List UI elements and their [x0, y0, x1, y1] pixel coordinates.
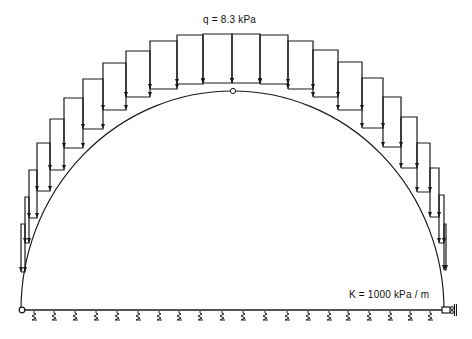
load-arrow-icon — [27, 213, 31, 218]
load-arrow-icon — [428, 212, 432, 217]
load-arrow-icon — [336, 105, 340, 110]
spring-stiffness-label: K = 1000 kPa / m — [349, 289, 429, 300]
load-arrow-icon — [27, 238, 31, 243]
load-magnitude-label: q = 8.3 kPa — [203, 14, 256, 25]
load-arrow-icon — [148, 84, 152, 89]
load-arrow-icon — [62, 143, 66, 148]
spring-icon — [408, 311, 413, 320]
load-panel — [23, 197, 31, 243]
load-panel — [148, 41, 179, 89]
spring-icon — [198, 311, 203, 320]
arch-curve — [21, 91, 444, 310]
spring-icon — [367, 311, 372, 320]
spring-icon — [306, 311, 311, 320]
load-panel — [381, 97, 403, 147]
spring-icon — [428, 311, 433, 320]
load-panel — [62, 98, 85, 148]
load-arrow-icon — [286, 84, 290, 89]
spring-icon — [388, 311, 393, 320]
load-arrow-icon — [175, 79, 179, 84]
load-arrow-icon — [311, 92, 315, 97]
load-panel — [336, 62, 364, 110]
load-panel — [101, 63, 128, 110]
spring-icon — [327, 311, 332, 320]
load-panel — [286, 41, 315, 89]
load-arrow-icon — [23, 238, 27, 243]
load-arrow-icon — [148, 92, 152, 97]
elastic-springs — [32, 311, 433, 320]
load-panel — [201, 34, 234, 83]
load-arrow-icon — [19, 267, 23, 272]
load-arrow-icon — [48, 186, 52, 191]
load-arrow-icon — [35, 186, 39, 191]
spring-icon — [32, 311, 37, 320]
spring-icon — [177, 311, 182, 320]
load-panel — [258, 35, 290, 84]
spring-icon — [73, 311, 78, 320]
load-panel — [311, 50, 340, 97]
load-arrow-icon — [437, 238, 441, 243]
load-arrow-icon — [124, 105, 128, 110]
load-arrow-icon — [381, 142, 385, 147]
load-arrow-icon — [101, 124, 105, 129]
load-arrow-icon — [399, 163, 403, 168]
load-arrow-icon — [81, 143, 85, 148]
load-arrow-icon — [101, 105, 105, 110]
load-panel — [81, 79, 105, 129]
pin-support-icon — [19, 307, 25, 313]
distributed-load-panels — [19, 34, 448, 272]
spring-icon — [115, 311, 120, 320]
load-panel — [442, 224, 448, 270]
load-arrow-icon — [124, 92, 128, 97]
spring-icon — [346, 311, 351, 320]
load-arrow-icon — [230, 78, 234, 83]
load-arrow-icon — [360, 123, 364, 128]
crown-hinge-icon — [230, 88, 235, 93]
load-panel — [175, 35, 205, 84]
spring-icon — [136, 311, 141, 320]
spring-icon — [94, 311, 99, 320]
load-arrow-icon — [62, 165, 66, 170]
spring-icon — [263, 311, 268, 320]
load-panel — [230, 34, 262, 83]
spring-icon — [157, 311, 162, 320]
spring-icon — [220, 311, 225, 320]
spring-icon — [241, 311, 246, 320]
load-arrow-icon — [415, 187, 419, 192]
load-arrow-icon — [35, 213, 39, 218]
spring-icon — [52, 311, 57, 320]
load-panel — [124, 51, 152, 97]
load-arrow-icon — [81, 124, 85, 129]
spring-icon — [285, 311, 290, 320]
load-panel — [437, 195, 446, 243]
load-panel — [360, 78, 385, 128]
load-arrow-icon — [175, 84, 179, 89]
load-arrow-icon — [48, 165, 52, 170]
